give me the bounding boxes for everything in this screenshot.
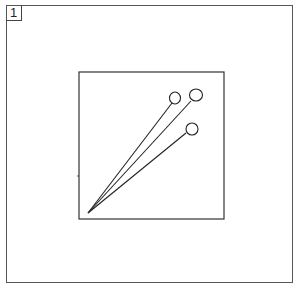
- pins-icon: [88, 89, 203, 213]
- pins-illustration: [0, 0, 299, 292]
